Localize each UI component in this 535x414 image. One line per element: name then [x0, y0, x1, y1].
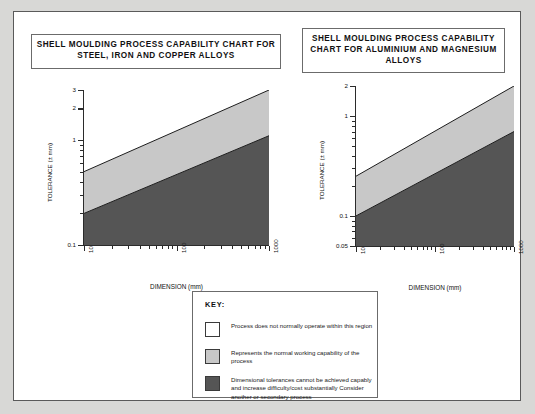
y-tick-label: 1	[50, 136, 76, 143]
x-minor-tick	[404, 247, 405, 250]
y-minor-tick	[352, 186, 355, 187]
x-minor-tick	[128, 246, 129, 249]
x-minor-tick	[265, 246, 266, 249]
y-tick-label: 1	[322, 112, 348, 119]
y-minor-tick	[352, 138, 355, 139]
x-tick-label: 10	[87, 246, 94, 253]
y-major-tick	[350, 216, 356, 217]
x-minor-tick	[423, 247, 424, 250]
x-minor-tick	[168, 246, 169, 249]
x-minor-tick	[221, 246, 222, 249]
y-axis-title: TOLERANCE (± mm)	[318, 141, 325, 200]
y-tick-label: 0.1	[50, 241, 76, 248]
x-minor-tick	[427, 247, 428, 250]
x-tick-label: 100	[180, 243, 187, 253]
key-label-white: Process does not normally operate within…	[231, 322, 372, 330]
y-minor-tick	[80, 172, 83, 173]
plot-area	[356, 86, 514, 246]
x-minor-tick	[506, 247, 507, 250]
y-minor-tick	[352, 121, 355, 122]
y-tick-label: 3	[50, 86, 76, 93]
y-minor-tick	[80, 156, 83, 157]
key-item-dark-gray: Dimensional tolerances cannot be achieve…	[205, 376, 376, 401]
y-minor-tick	[80, 195, 83, 196]
y-minor-tick	[352, 231, 355, 232]
y-minor-tick	[80, 150, 83, 151]
x-minor-tick	[140, 246, 141, 249]
x-minor-tick	[411, 247, 412, 250]
x-minor-tick	[241, 246, 242, 249]
x-minor-tick	[502, 247, 503, 250]
key-swatch-white	[205, 322, 220, 337]
y-major-tick	[350, 116, 356, 117]
x-minor-tick	[483, 247, 484, 250]
y-tick-label: 2	[322, 82, 348, 89]
key-swatch-dark-gray	[205, 376, 220, 391]
x-minor-tick	[394, 247, 395, 250]
x-minor-tick	[473, 247, 474, 250]
y-axis-line	[355, 86, 356, 246]
x-axis-title: DIMENSION (mm)	[356, 284, 514, 291]
x-major-tick	[356, 247, 357, 252]
plot-area	[84, 90, 269, 245]
y-major-tick	[78, 108, 84, 109]
x-tick-label: 10	[359, 247, 366, 254]
y-axis-title: TOLERANCE (± mm)	[46, 143, 53, 202]
y-major-tick	[78, 90, 84, 91]
key-label-light-gray: Represents the normal working capability…	[231, 349, 376, 366]
y-tick-label: 2	[50, 104, 76, 111]
y-minor-tick	[80, 182, 83, 183]
y-minor-tick	[80, 213, 83, 214]
y-major-tick	[350, 246, 356, 247]
y-minor-tick	[352, 168, 355, 169]
y-minor-tick	[352, 238, 355, 239]
x-major-tick	[177, 246, 178, 251]
y-major-tick	[78, 140, 84, 141]
x-minor-tick	[417, 247, 418, 250]
key-legend: KEY: Process does not normally operate w…	[192, 291, 378, 398]
y-minor-tick	[352, 132, 355, 133]
y-tick-label: 0.1	[322, 212, 348, 219]
x-minor-tick	[496, 247, 497, 250]
y-minor-tick	[352, 156, 355, 157]
x-minor-tick	[490, 247, 491, 250]
y-major-tick	[78, 245, 84, 246]
x-tick-label: 1000	[517, 240, 524, 254]
capability-chart-aluminium-magnesium: 0.050.112101001000DIMENSION (mm)TOLERANC…	[314, 74, 529, 282]
x-minor-tick	[380, 247, 381, 250]
x-minor-tick	[162, 246, 163, 249]
capability-regions	[356, 86, 514, 246]
x-minor-tick	[260, 246, 261, 249]
chart-title-left: SHELL MOULDING PROCESS CAPABILITY CHART …	[31, 34, 281, 69]
x-major-tick	[514, 247, 515, 252]
x-tick-label: 100	[438, 244, 445, 254]
x-minor-tick	[431, 247, 432, 250]
y-minor-tick	[352, 221, 355, 222]
y-minor-tick	[352, 126, 355, 127]
x-minor-tick	[255, 246, 256, 249]
x-axis-title: DIMENSION (mm)	[84, 283, 269, 290]
chart-sheet: SHELL MOULDING PROCESS CAPABILITY CHART …	[13, 11, 521, 401]
x-minor-tick	[204, 246, 205, 249]
capability-chart-steel-iron-copper: 0.1123101001000DIMENSION (mm)TOLERANCE (…	[44, 82, 294, 282]
x-major-tick	[269, 246, 270, 251]
y-minor-tick	[80, 163, 83, 164]
x-minor-tick	[172, 246, 173, 249]
x-minor-tick	[156, 246, 157, 249]
key-item-white: Process does not normally operate within…	[205, 322, 372, 337]
x-minor-tick	[248, 246, 249, 249]
y-minor-tick	[80, 145, 83, 146]
key-swatch-light-gray	[205, 349, 220, 364]
x-tick-label: 1000	[272, 239, 279, 253]
capability-regions	[84, 90, 269, 245]
x-minor-tick	[459, 247, 460, 250]
key-heading: KEY:	[205, 300, 225, 309]
y-minor-tick	[352, 226, 355, 227]
y-axis-line	[83, 90, 84, 245]
x-minor-tick	[232, 246, 233, 249]
x-minor-tick	[112, 246, 113, 249]
x-minor-tick	[149, 246, 150, 249]
key-item-light-gray: Represents the normal working capability…	[205, 349, 376, 366]
y-minor-tick	[352, 146, 355, 147]
x-minor-tick	[510, 247, 511, 250]
